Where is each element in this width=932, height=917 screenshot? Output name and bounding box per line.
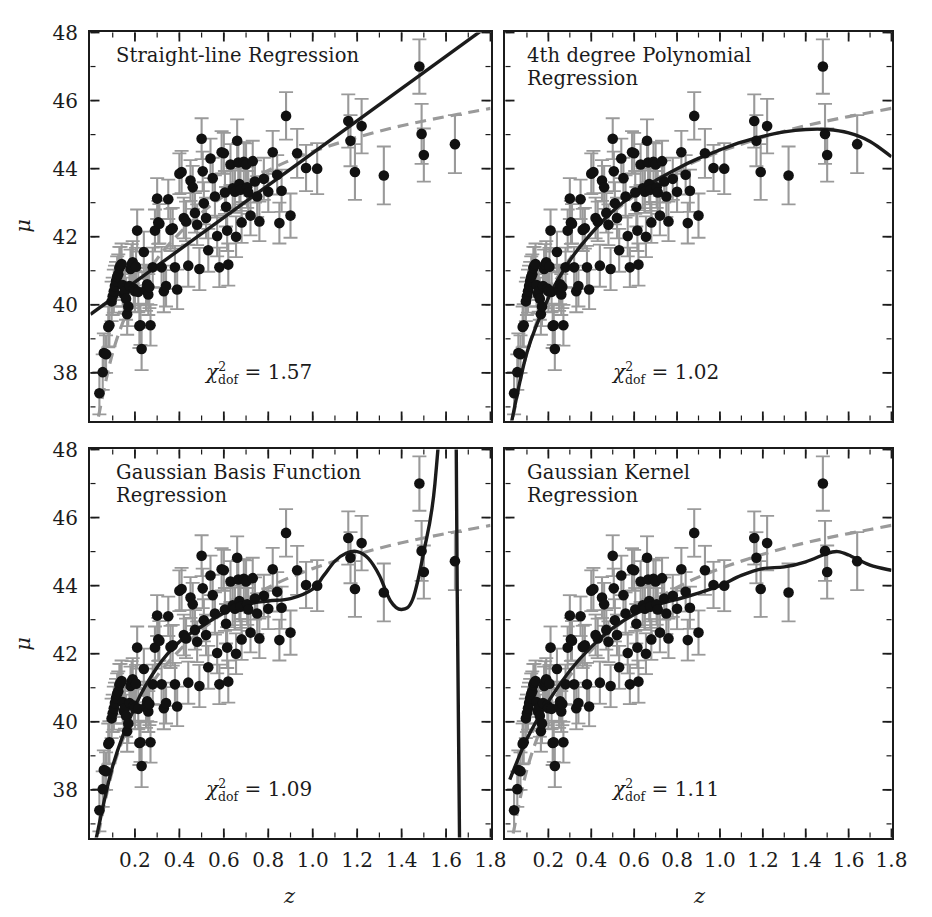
panel-poly4: 4th degree Polynomial Regression χ2dof =… (503, 30, 894, 423)
y-tick-label: 42 (36, 642, 78, 666)
chi-symbol: χ (613, 360, 625, 384)
y-tick-label: 46 (36, 506, 78, 530)
chi-squared-annotation: χ2dof = 1.02 (613, 360, 719, 384)
panel-title: Gaussian Basis Function Regression (116, 461, 361, 507)
y-tick-label: 44 (36, 157, 78, 181)
chi-squared-annotation: χ2dof = 1.11 (613, 777, 719, 801)
y-tick-label: 40 (36, 293, 78, 317)
chi-symbol: χ (613, 777, 625, 801)
panel-gaussian-kernel: Gaussian Kernel Regression χ2dof = 1.11 (503, 447, 894, 840)
y-axis-label-bottom: μ (11, 637, 35, 651)
y-tick-label: 40 (36, 710, 78, 734)
y-tick-label: 46 (36, 89, 78, 113)
y-axis-label-top: μ (11, 219, 35, 233)
chi-squared-annotation: χ2dof = 1.09 (206, 777, 312, 801)
x-tick-label: 1.8 (865, 848, 919, 872)
panel-gaussian-basis: Gaussian Basis Function Regression χ2dof… (88, 447, 493, 840)
panel-straight-line: Straight-line Regression χ2dof = 1.57 (88, 30, 493, 423)
panel-title: Gaussian Kernel Regression (527, 461, 690, 507)
chi-subscript: dof (625, 789, 645, 804)
chi-value: = 1.02 (652, 360, 720, 384)
x-axis-label-left: z (284, 884, 295, 908)
panel-title: 4th degree Polynomial Regression (527, 44, 751, 90)
chi-value: = 1.11 (652, 777, 720, 801)
chi-value: = 1.57 (245, 360, 313, 384)
chi-value: = 1.09 (245, 777, 313, 801)
chi-squared-annotation: χ2dof = 1.57 (206, 360, 312, 384)
y-tick-label: 38 (36, 778, 78, 802)
chi-subscript: dof (218, 372, 238, 387)
chi-symbol: χ (206, 360, 218, 384)
y-tick-label: 42 (36, 225, 78, 249)
y-tick-label: 48 (36, 438, 78, 462)
chi-subscript: dof (218, 789, 238, 804)
regression-comparison-figure: μ μ z z Straight-line Regression χ2dof =… (0, 0, 932, 917)
x-tick-label: 1.8 (464, 848, 518, 872)
y-tick-label: 44 (36, 574, 78, 598)
y-tick-label: 48 (36, 21, 78, 45)
y-tick-label: 38 (36, 361, 78, 385)
chi-subscript: dof (625, 372, 645, 387)
chi-symbol: χ (206, 777, 218, 801)
panel-title: Straight-line Regression (116, 44, 359, 67)
x-axis-label-right: z (694, 884, 705, 908)
